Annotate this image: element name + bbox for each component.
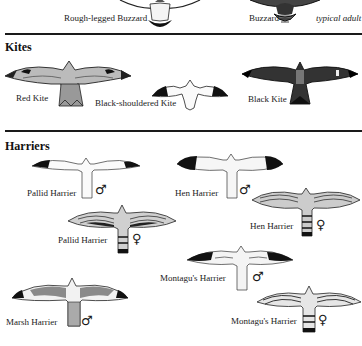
harrier-label: Pallid Harrier bbox=[58, 235, 107, 245]
red-kite-label: Red Kite bbox=[16, 93, 48, 103]
black-kite-illustration bbox=[240, 58, 360, 113]
kites-heading: Kites bbox=[5, 40, 32, 55]
male-symbol: ♂ bbox=[239, 183, 251, 196]
black-shouldered-kite-illustration bbox=[150, 76, 230, 118]
female-symbol: ♀ bbox=[132, 232, 142, 245]
male-symbol: ♂ bbox=[81, 314, 93, 327]
male-symbol: ♂ bbox=[252, 270, 264, 283]
rough-legged-buzzard-label: Rough-legged Buzzard bbox=[64, 13, 147, 23]
harriers-heading: Harriers bbox=[5, 139, 50, 154]
buzzard-note: typical adult bbox=[316, 13, 361, 23]
harrier-label: Montagu's Harrier bbox=[160, 273, 226, 283]
section-divider bbox=[5, 130, 362, 132]
harrier-label: Hen Harrier bbox=[250, 221, 293, 231]
pallid-harrier-female-illustration bbox=[66, 205, 178, 255]
section-divider bbox=[5, 33, 362, 35]
female-symbol: ♀ bbox=[316, 218, 326, 231]
female-symbol: ♀ bbox=[318, 313, 328, 326]
harrier-label: Hen Harrier bbox=[175, 188, 218, 198]
black-kite-label: Black Kite bbox=[248, 94, 287, 104]
male-symbol: ♂ bbox=[95, 183, 107, 196]
buzzard-label: Buzzard bbox=[249, 13, 279, 23]
harrier-label: Marsh Harrier bbox=[6, 317, 57, 327]
harrier-label: Pallid Harrier bbox=[27, 188, 76, 198]
montagus-harrier-female-illustration bbox=[255, 286, 362, 334]
black-shouldered-kite-label: Black-shouldered Kite bbox=[95, 98, 176, 108]
montagus-harrier-male-illustration bbox=[185, 244, 295, 292]
harrier-label: Montagu's Harrier bbox=[231, 316, 297, 326]
